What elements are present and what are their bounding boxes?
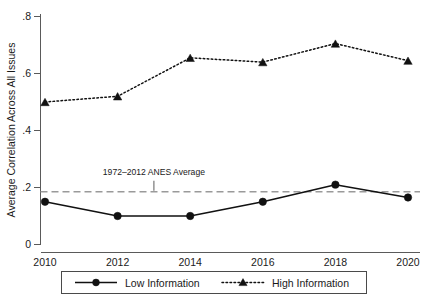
series-markers-low-information xyxy=(41,181,411,220)
data-point-high-information xyxy=(41,98,49,105)
series-line-low-information xyxy=(45,185,408,216)
x-tick-label: 2014 xyxy=(179,256,203,268)
data-point-low-information xyxy=(114,212,121,219)
x-tick-label: 2016 xyxy=(251,256,275,268)
series-markers-high-information xyxy=(41,40,412,106)
y-axis-ticks: .8 .6 .4 .2 0 xyxy=(22,10,40,250)
y-tick-label: .6 xyxy=(22,67,31,79)
series-line-high-information xyxy=(45,44,408,102)
legend-label-high-information: High Information xyxy=(272,277,349,289)
y-axis-title: Average Correlation Across All Issues xyxy=(5,43,17,218)
legend-marker-circle-icon xyxy=(93,279,100,286)
data-point-low-information xyxy=(41,198,48,205)
x-tick-label: 2010 xyxy=(33,256,57,268)
data-point-high-information xyxy=(404,57,412,64)
data-point-low-information xyxy=(332,181,339,188)
y-tick-label: .8 xyxy=(22,10,31,22)
y-tick-label: .2 xyxy=(22,181,31,193)
x-tick-label: 2020 xyxy=(396,256,420,268)
annotation-anes-average-label: 1972–2012 ANES Average xyxy=(103,167,205,177)
data-point-low-information xyxy=(259,198,266,205)
x-tick-label: 2012 xyxy=(106,256,130,268)
y-tick-label: 0 xyxy=(25,238,31,250)
x-tick-label: 2018 xyxy=(324,256,348,268)
chart-legend: Low Information High Information xyxy=(62,272,367,294)
data-point-low-information xyxy=(404,194,411,201)
y-tick-label: .4 xyxy=(22,124,31,136)
x-axis-ticks: 2010 2012 2014 2016 2018 2020 xyxy=(33,256,420,268)
legend-label-low-information: Low Information xyxy=(125,277,200,289)
line-chart: Average Correlation Across All Issues .8… xyxy=(0,0,428,298)
chart-container: Average Correlation Across All Issues .8… xyxy=(0,0,428,298)
data-point-low-information xyxy=(187,212,194,219)
